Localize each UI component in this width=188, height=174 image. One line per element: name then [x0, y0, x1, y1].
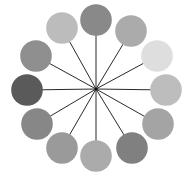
grey-circle: [115, 15, 147, 47]
grey-circle: [21, 108, 53, 140]
grey-circle: [20, 40, 52, 72]
grey-circle: [116, 132, 148, 164]
grey-circle: [141, 40, 173, 72]
center-hub: [94, 87, 97, 90]
grey-circle: [80, 140, 112, 172]
grey-circle: [46, 12, 78, 44]
grey-circle: [46, 132, 78, 164]
grey-circle: [11, 74, 43, 106]
grey-circle: [80, 4, 112, 36]
radial-circle-diagram: [0, 0, 188, 174]
grey-circle: [142, 108, 174, 140]
grey-circle: [150, 74, 182, 106]
